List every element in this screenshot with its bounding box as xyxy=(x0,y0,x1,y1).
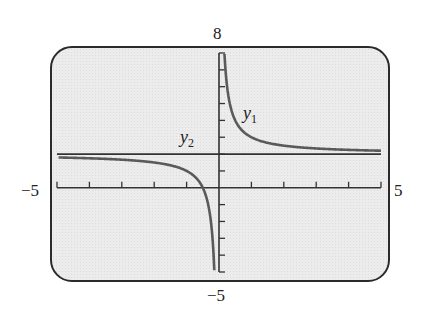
y1-curve-left-branch xyxy=(59,157,215,270)
y2-sub: 2 xyxy=(188,136,194,150)
graph-plot xyxy=(0,0,425,319)
ymax-label: 8 xyxy=(213,25,222,42)
axes xyxy=(57,53,381,272)
xmin-label: −5 xyxy=(21,182,39,199)
y2-var: y xyxy=(180,127,188,147)
y1-var: y xyxy=(243,103,251,123)
y1-sub: 1 xyxy=(251,112,257,126)
xmax-label: 5 xyxy=(394,182,403,199)
y2-series-label: y2 xyxy=(180,128,194,149)
y1-series-label: y1 xyxy=(243,104,257,125)
ymin-label: −5 xyxy=(207,287,225,304)
